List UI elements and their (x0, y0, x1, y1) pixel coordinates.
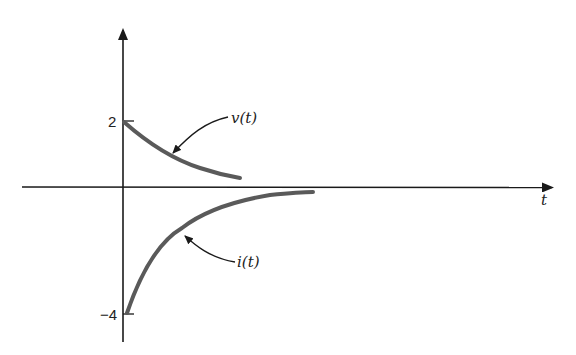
i-annotation-label: i(t) (237, 253, 260, 271)
y-tick-label-minus4: −4 (100, 306, 117, 323)
i-curve (127, 192, 313, 313)
v-curve (124, 122, 240, 178)
i-annotation-arrow (185, 236, 235, 262)
chart-canvas: 2 −4 t v(t) i(t) (0, 0, 576, 355)
y-tick-label-2: 2 (108, 113, 116, 130)
v-annotation-arrow (173, 117, 228, 153)
v-annotation-label: v(t) (231, 109, 257, 127)
x-axis (22, 187, 552, 188)
x-axis-label: t (541, 191, 548, 209)
